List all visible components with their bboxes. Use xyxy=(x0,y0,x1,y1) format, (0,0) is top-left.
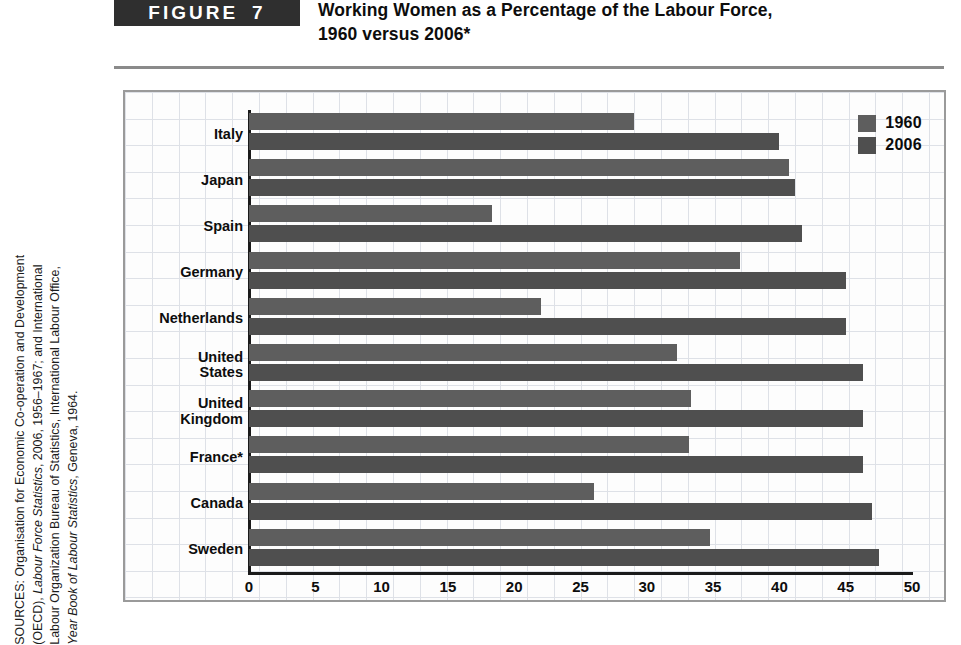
bar-1960 xyxy=(249,483,594,500)
source-note-line-3: Labour Organization Bureau of Statistics… xyxy=(48,60,66,645)
legend-label-2006: 2006 xyxy=(885,136,922,154)
bar-1960 xyxy=(249,205,492,222)
source-line2-prefix: (OECD), xyxy=(31,594,45,645)
x-tick-label: 15 xyxy=(440,578,457,595)
bar-2006 xyxy=(249,503,872,520)
bar-1960 xyxy=(249,298,541,315)
source-note-line-2: (OECD), Labour Force Statistics, 2006, 1… xyxy=(30,60,48,645)
bar-1960 xyxy=(249,344,677,361)
x-tick-label: 10 xyxy=(373,578,390,595)
bar-2006 xyxy=(249,272,846,289)
category-label: United States xyxy=(198,350,243,380)
category-axis-labels: ItalyJapanSpainGermanyNetherlandsUnited … xyxy=(125,110,243,572)
source-note-line-1: SOURCES: Organisation for Economic Co-op… xyxy=(12,60,30,645)
figure-badge-word: FIGURE xyxy=(148,2,238,24)
legend-item-2006: 2006 xyxy=(858,136,922,154)
x-tick-label: 40 xyxy=(771,578,788,595)
x-tick-label: 5 xyxy=(311,578,319,595)
bar-1960 xyxy=(249,252,740,269)
x-axis-tick-labels: 05101520253035404550 xyxy=(249,578,912,602)
source-line4-title: Year Book of Labour Statistics xyxy=(66,479,80,645)
header-divider-rule xyxy=(114,66,944,69)
legend-label-1960: 1960 xyxy=(885,114,922,132)
category-label: United Kingdom xyxy=(180,396,243,426)
category-label: Netherlands xyxy=(159,311,243,326)
bar-1960 xyxy=(249,390,691,407)
source-note: SOURCES: Organisation for Economic Co-op… xyxy=(12,60,82,645)
x-tick-label: 30 xyxy=(638,578,655,595)
source-line4-suffix: , Geneva, 1964. xyxy=(66,391,80,479)
bar-1960 xyxy=(249,159,789,176)
figure-title: Working Women as a Percentage of the Lab… xyxy=(318,0,958,46)
legend-swatch-1960-icon xyxy=(858,115,876,132)
bar-2006 xyxy=(249,549,879,566)
x-tick-label: 50 xyxy=(904,578,921,595)
bar-2006 xyxy=(249,410,863,427)
source-line2-title: Labour Force Statistics xyxy=(31,467,45,594)
category-label: Japan xyxy=(201,173,243,188)
source-note-line-4: Year Book of Labour Statistics, Geneva, … xyxy=(65,60,83,645)
figure-title-line-2: 1960 versus 2006* xyxy=(318,22,958,46)
figure-title-line-1: Working Women as a Percentage of the Lab… xyxy=(318,0,958,22)
category-label: Spain xyxy=(204,219,243,234)
bar-2006 xyxy=(249,133,779,150)
figure-header: FIGURE 7 Working Women as a Percentage o… xyxy=(110,0,961,62)
legend-swatch-2006-icon xyxy=(858,137,876,154)
x-tick-label: 0 xyxy=(245,578,253,595)
x-tick-label: 35 xyxy=(705,578,722,595)
bar-1960 xyxy=(249,529,710,546)
bar-2006 xyxy=(249,318,846,335)
legend-item-1960: 1960 xyxy=(858,114,922,132)
bar-2006 xyxy=(249,179,795,196)
source-line2-suffix: , 2006, 1956–1967; and International xyxy=(31,265,45,468)
figure-badge-number: 7 xyxy=(252,2,266,24)
category-label: Canada xyxy=(191,496,243,511)
figure-number-badge: FIGURE 7 xyxy=(114,0,300,26)
chart-frame: ItalyJapanSpainGermanyNetherlandsUnited … xyxy=(123,90,946,602)
category-label: Sweden xyxy=(188,542,243,557)
bar-2006 xyxy=(249,364,863,381)
x-tick-label: 45 xyxy=(837,578,854,595)
plot-area xyxy=(249,110,912,572)
category-label: Germany xyxy=(180,265,243,280)
x-tick-label: 20 xyxy=(506,578,523,595)
bar-2006 xyxy=(249,456,863,473)
chart-legend: 1960 2006 xyxy=(858,114,922,154)
bar-1960 xyxy=(249,436,689,453)
x-axis-line xyxy=(248,572,913,575)
x-tick-label: 25 xyxy=(572,578,589,595)
category-label: France* xyxy=(190,450,243,465)
category-label: Italy xyxy=(214,127,243,142)
bar-2006 xyxy=(249,225,802,242)
bar-1960 xyxy=(249,113,634,130)
